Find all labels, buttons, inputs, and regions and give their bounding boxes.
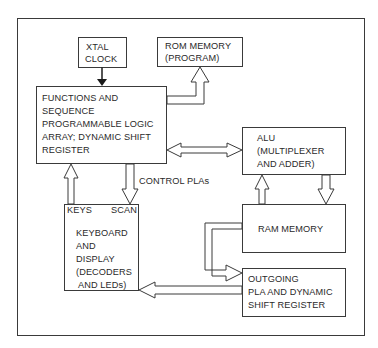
- ram-to-outgoing-arrow: [205, 223, 242, 281]
- scan-port-label: SCAN: [111, 205, 137, 215]
- xtal-label-line2: CLOCK: [85, 54, 118, 64]
- rom-label-line2: (PROGRAM): [165, 53, 220, 63]
- alu-block: ALU (MULTIPLEXER AND ADDER): [243, 128, 346, 175]
- keys-port-label: KEYS: [67, 205, 92, 215]
- ram-to-alu-arrow: [255, 175, 269, 204]
- keyboard-label-line3: DISPLAY: [76, 254, 115, 264]
- alu-label-line1: ALU: [257, 133, 275, 143]
- ram-label: RAM MEMORY: [258, 224, 323, 234]
- functions-block: FUNCTIONS AND SEQUENCE PROGRAMMABLE LOGI…: [37, 87, 167, 164]
- functions-alu-double-arrow: [167, 143, 242, 157]
- functions-label-line3: PROGRAMMABLE LOGIC: [42, 119, 154, 129]
- keyboard-label-line5: AND LEDs): [78, 280, 126, 290]
- functions-label-line5: REGISTER: [42, 145, 90, 155]
- keyboard-label-line4: (DECODERS: [76, 267, 132, 277]
- keyboard-label-line1: KEYBOARD: [76, 228, 128, 238]
- block-diagram: XTAL CLOCK ROM MEMORY (PROGRAM) FUNCTION…: [0, 0, 378, 348]
- keys-to-functions-arrow: [64, 164, 78, 204]
- rom-memory-block: ROM MEMORY (PROGRAM): [158, 38, 243, 67]
- clock-arrow: [97, 67, 107, 86]
- xtal-label-line1: XTAL: [86, 42, 109, 52]
- alu-label-line2: (MULTIPLEXER: [257, 146, 325, 156]
- functions-label-line4: ARRAY; DYNAMIC SHIFT: [42, 132, 151, 142]
- keyboard-display-block: KEYS SCAN KEYBOARD AND DISPLAY (DECODERS…: [65, 205, 139, 291]
- keyboard-label-line2: AND: [76, 241, 96, 251]
- outgoing-pla-block: OUTGOING PLA AND DYNAMIC SHIFT REGISTER: [243, 269, 346, 317]
- outgoing-label-line2: PLA AND DYNAMIC: [248, 287, 333, 297]
- ram-memory-block: RAM MEMORY: [243, 205, 346, 253]
- functions-label-line2: SEQUENCE: [42, 106, 94, 116]
- rom-label-line1: ROM MEMORY: [165, 41, 231, 51]
- xtal-clock-block: XTAL CLOCK: [79, 38, 127, 68]
- control-plas-label: CONTROL PLAs: [139, 176, 210, 186]
- functions-label-line1: FUNCTIONS AND: [42, 93, 119, 103]
- alu-to-ram-arrow: [318, 175, 334, 204]
- alu-label-line3: AND ADDER): [257, 159, 315, 169]
- outgoing-label-line3: SHIFT REGISTER: [248, 300, 326, 310]
- outgoing-label-line1: OUTGOING: [248, 274, 299, 284]
- outgoing-to-keyboard-arrow: [139, 282, 242, 298]
- control-to-keyboard-arrow: [122, 164, 138, 204]
- functions-to-rom-arrow: [167, 67, 209, 104]
